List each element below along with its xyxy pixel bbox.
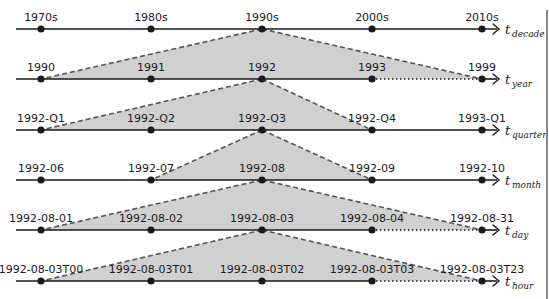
time-point [368,277,375,284]
time-point [368,126,375,133]
time-point-label: 1992-Q2 [127,112,175,125]
time-point [258,226,265,233]
axis-subscript: year [511,79,533,89]
time-granularity-diagram: 1970s1980s1990s2000s2010stdecade19901991… [0,0,549,299]
time-point [368,25,375,32]
time-point-label: 1991 [137,61,165,74]
axis-subscript: hour [512,281,534,291]
time-point [37,126,44,133]
time-point-label: 1990s [245,11,279,24]
time-point-label: 1992-08-04 [340,212,404,225]
time-point [368,226,375,233]
time-point-label: 1992-09 [349,162,395,175]
right-border-divider [546,10,548,299]
time-point-label: 1990 [27,61,55,74]
time-point [147,176,154,183]
time-point [37,75,44,82]
time-point [147,226,154,233]
time-point-label: 1992-08-03 [230,212,294,225]
axis-subscript: month [512,180,541,190]
time-point-label: 1992-08-02 [119,212,183,225]
time-point [258,75,265,82]
time-point [37,25,44,32]
time-point-label: 1993-Q1 [458,112,506,125]
time-point [368,75,375,82]
axis-symbol: t [505,223,511,238]
time-point [147,126,154,133]
time-point-label: 1992-08-03T00 [0,263,83,276]
time-point [478,75,485,82]
time-point-label: 1993 [358,61,386,74]
time-point [258,126,265,133]
time-point-label: 1992-08 [239,162,285,175]
time-point [478,226,485,233]
time-point-label: 1992-08-03T23 [440,263,525,276]
zoom-cone-1 [41,79,372,130]
time-point [37,226,44,233]
time-point-label: 1980s [134,11,168,24]
time-point-label: 1992-07 [128,162,174,175]
time-point [258,176,265,183]
time-point [258,277,265,284]
time-point-label: 1992-08-03T02 [220,263,305,276]
time-point-label: 2010s [465,11,499,24]
axis-symbol: t [505,173,511,188]
axis-symbol: t [505,274,511,289]
time-point-label: 1992-10 [459,162,505,175]
time-point-label: 1999 [468,61,496,74]
time-point [478,176,485,183]
time-point [147,277,154,284]
time-point-label: 1992-08-03T03 [330,263,415,276]
time-point-label: 1992 [248,61,276,74]
time-point-label: 1992-Q3 [238,112,286,125]
time-point-label: 1992-08-03T01 [109,263,194,276]
time-point [37,176,44,183]
time-point-label: 1992-Q4 [348,112,396,125]
axis-subscript: day [512,230,529,240]
axis-symbol: t [505,123,511,138]
time-point [478,25,485,32]
time-point [368,176,375,183]
time-point [147,75,154,82]
time-point [478,277,485,284]
time-point-label: 1992-06 [18,162,64,175]
time-point-label: 1992-08-01 [9,212,73,225]
time-point [478,126,485,133]
time-point-label: 1970s [24,11,58,24]
time-point-label: 1992-Q1 [17,112,65,125]
time-point [147,25,154,32]
time-point [37,277,44,284]
axis-subscript: quarter [512,130,547,140]
axis-subscript: decade [512,29,545,39]
time-point-label: 2000s [355,11,389,24]
time-point [258,25,265,32]
axis-symbol: t [505,72,511,87]
axis-symbol: t [505,22,511,37]
